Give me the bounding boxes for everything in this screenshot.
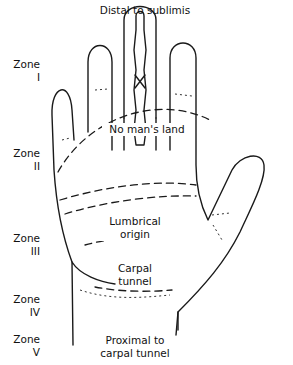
region-label-no-mans-land: No man's land: [102, 123, 192, 136]
region-label-proximal: Proximal to carpal tunnel: [90, 334, 180, 360]
zone-label-3: Zone III: [0, 232, 40, 258]
hand-illustration: [0, 0, 293, 365]
zone-i-ii-boundary: [58, 109, 210, 172]
zone-label-2: Zone II: [0, 147, 40, 173]
zone-label-5: Zone V: [0, 333, 40, 359]
zone-label-1: Zone I: [0, 58, 40, 84]
figure-title: Distal to sublimis: [90, 4, 200, 17]
region-label-carpal-tunnel: Carpal tunnel: [100, 262, 170, 288]
zone-label-4: Zone IV: [0, 293, 40, 319]
region-label-lumbrical-origin: Lumbrical origin: [100, 215, 170, 241]
hand-zone-diagram: Distal to sublimis No man's land Lumbric…: [0, 0, 293, 365]
